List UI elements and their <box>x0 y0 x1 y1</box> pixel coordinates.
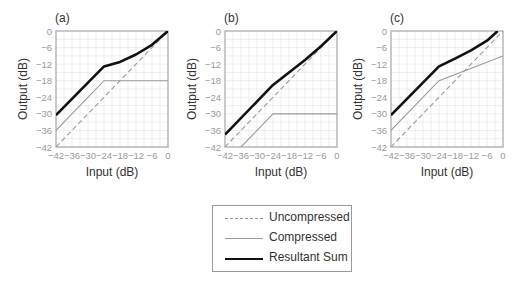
y-tick-label: −12 <box>205 59 221 70</box>
x-tick-label: −18 <box>281 150 297 161</box>
y-tick-label: −30 <box>371 108 387 119</box>
y-tick-label: −12 <box>36 59 52 70</box>
y-tick-label: −18 <box>205 75 221 86</box>
x-tick-label: −24 <box>431 150 447 161</box>
y-tick-label: 0 <box>382 26 387 37</box>
y-axis-label: Output (dB) <box>351 58 365 120</box>
y-tick-label: −18 <box>371 75 387 86</box>
panel-label: (a) <box>55 11 70 25</box>
thick-line-icon <box>225 258 263 260</box>
legend-entry-resultant-sum: Resultant Sum <box>213 249 351 267</box>
y-tick-label: −42 <box>36 142 52 153</box>
y-tick-label: −6 <box>210 42 221 53</box>
x-tick-label: −30 <box>80 150 96 161</box>
y-tick-label: −42 <box>371 142 387 153</box>
x-tick-label: 0 <box>334 150 339 161</box>
x-axis-label: Input (dB) <box>421 165 474 179</box>
y-tick-label: −12 <box>371 59 387 70</box>
legend-entry-uncompressed: Uncompressed <box>213 209 351 227</box>
x-tick-label: −6 <box>147 150 158 161</box>
y-tick-label: 0 <box>47 26 52 37</box>
x-tick-label: 0 <box>165 150 170 161</box>
x-tick-label: 0 <box>500 150 505 161</box>
y-tick-label: −24 <box>205 92 221 103</box>
y-tick-label: 0 <box>216 26 221 37</box>
y-tick-label: −42 <box>205 142 221 153</box>
x-tick-label: −12 <box>463 150 479 161</box>
thin-line-icon <box>225 238 263 239</box>
x-axis-label: Input (dB) <box>86 165 139 179</box>
y-tick-label: −24 <box>371 92 387 103</box>
x-tick-label: −30 <box>415 150 431 161</box>
x-tick-label: −36 <box>233 150 249 161</box>
legend-label: Resultant Sum <box>269 250 348 264</box>
x-tick-label: −12 <box>128 150 144 161</box>
chart-panel-a: −42−36−30−24−18−12−600−6−12−18−24−30−36−… <box>16 11 171 179</box>
compression-charts: −42−36−30−24−18−12−600−6−12−18−24−30−36−… <box>0 0 527 200</box>
y-tick-label: −36 <box>371 125 387 136</box>
legend-label: Compressed <box>269 230 337 244</box>
legend: Uncompressed Compressed Resultant Sum <box>212 205 352 272</box>
legend-label: Uncompressed <box>269 210 350 224</box>
x-tick-label: −12 <box>297 150 313 161</box>
x-tick-label: −18 <box>112 150 128 161</box>
y-axis-label: Output (dB) <box>185 58 199 120</box>
x-tick-label: −30 <box>249 150 265 161</box>
y-axis-label: Output (dB) <box>16 58 30 120</box>
x-tick-label: −36 <box>64 150 80 161</box>
x-tick-label: −36 <box>399 150 415 161</box>
x-tick-label: −24 <box>265 150 281 161</box>
chart-panel-b: −42−36−30−24−18−12−600−6−12−18−24−30−36−… <box>185 11 340 179</box>
x-tick-label: −18 <box>447 150 463 161</box>
x-tick-label: −6 <box>316 150 327 161</box>
y-tick-label: −6 <box>41 42 52 53</box>
panel-label: (b) <box>224 11 239 25</box>
dashed-line-icon <box>225 218 263 219</box>
x-tick-label: −6 <box>482 150 493 161</box>
y-tick-label: −30 <box>205 108 221 119</box>
x-axis-label: Input (dB) <box>255 165 308 179</box>
x-tick-label: −24 <box>96 150 112 161</box>
chart-panel-c: −42−36−30−24−18−12−600−6−12−18−24−30−36−… <box>351 11 506 179</box>
legend-entry-compressed: Compressed <box>213 229 351 247</box>
y-tick-label: −36 <box>36 125 52 136</box>
y-tick-label: −18 <box>36 75 52 86</box>
y-tick-label: −36 <box>205 125 221 136</box>
panel-label: (c) <box>390 11 404 25</box>
y-tick-label: −30 <box>36 108 52 119</box>
y-tick-label: −6 <box>376 42 387 53</box>
y-tick-label: −24 <box>36 92 52 103</box>
